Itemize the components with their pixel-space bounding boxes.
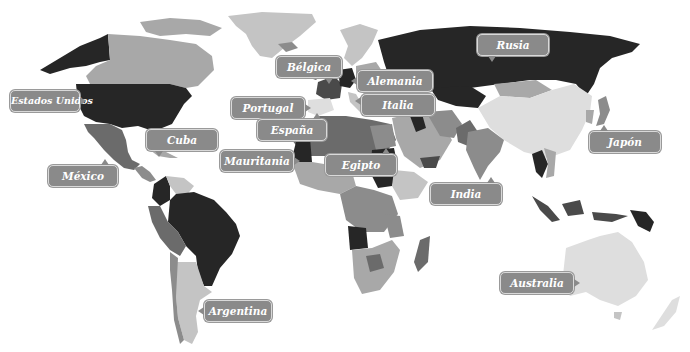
region-india[interactable] <box>466 128 504 180</box>
region-angola[interactable] <box>348 226 368 250</box>
region-usa[interactable] <box>76 84 192 130</box>
region-ethiopia[interactable] <box>392 170 428 200</box>
region-australia[interactable] <box>562 232 648 306</box>
label-text: Portugal <box>232 98 304 118</box>
label-text: Mauritania <box>221 151 293 171</box>
label-text: Estados Unidos <box>11 91 79 111</box>
callout-pointer-icon <box>80 97 86 105</box>
label-text: Italia <box>362 95 434 115</box>
label-rusia[interactable]: Rusia <box>477 34 549 56</box>
callout-pointer-icon <box>155 151 163 157</box>
label-text: Japón <box>590 132 660 152</box>
label-mauritania[interactable]: Mauritania <box>220 150 294 172</box>
region-mexico[interactable] <box>84 124 140 170</box>
label-italia[interactable]: Italia <box>361 94 435 116</box>
region-new-zealand[interactable] <box>652 296 680 330</box>
region-scandinavia[interactable] <box>340 24 378 66</box>
label-text: México <box>49 166 117 186</box>
label-text: Cuba <box>147 130 217 150</box>
label-egipto[interactable]: Egipto <box>325 154 397 176</box>
callout-pointer-icon <box>487 177 495 183</box>
callout-pointer-icon <box>600 125 608 131</box>
callout-pointer-icon <box>198 307 204 315</box>
region-japan[interactable] <box>596 96 610 126</box>
region-greenland[interactable] <box>228 12 316 58</box>
region-korea[interactable] <box>586 110 594 124</box>
callout-pointer-icon <box>351 77 357 85</box>
label-india[interactable]: India <box>430 183 502 205</box>
label-belgica[interactable]: Bélgica <box>276 56 342 78</box>
callout-pointer-icon <box>313 113 321 119</box>
region-indonesia[interactable] <box>532 196 628 222</box>
region-arctic-islands[interactable] <box>140 18 222 36</box>
region-spain[interactable] <box>308 98 334 116</box>
label-mexico[interactable]: México <box>48 165 118 187</box>
label-espana[interactable]: España <box>257 119 327 141</box>
region-colombia[interactable] <box>152 176 170 206</box>
callout-pointer-icon <box>305 104 311 112</box>
label-text: Alemania <box>358 71 432 91</box>
label-estados-unidos[interactable]: Estados Unidos <box>10 90 80 112</box>
label-portugal[interactable]: Portugal <box>231 97 305 119</box>
label-text: Egipto <box>326 155 396 175</box>
region-central-america[interactable] <box>134 166 156 182</box>
label-text: España <box>258 120 326 140</box>
region-tanzania[interactable] <box>384 214 404 238</box>
label-text: Bélgica <box>277 57 341 77</box>
label-text: Australia <box>501 273 573 293</box>
label-japon[interactable]: Japón <box>589 131 661 153</box>
label-text: Rusia <box>478 35 548 55</box>
label-alemania[interactable]: Alemania <box>357 70 433 92</box>
callout-pointer-icon <box>101 159 109 165</box>
region-kazakhstan[interactable] <box>430 86 486 108</box>
callout-pointer-icon <box>355 97 361 105</box>
region-madagascar[interactable] <box>414 236 430 272</box>
region-papua[interactable] <box>630 210 654 232</box>
callout-pointer-icon <box>574 279 580 287</box>
callout-pointer-icon <box>294 157 300 165</box>
callout-pointer-icon <box>325 78 333 84</box>
label-argentina[interactable]: Argentina <box>204 300 272 322</box>
label-text: India <box>431 184 501 204</box>
callout-pointer-icon <box>488 56 496 62</box>
callout-pointer-icon <box>382 148 390 154</box>
label-text: Argentina <box>205 301 271 321</box>
region-tasmania[interactable] <box>614 312 622 320</box>
label-cuba[interactable]: Cuba <box>146 129 218 151</box>
label-australia[interactable]: Australia <box>500 272 574 294</box>
